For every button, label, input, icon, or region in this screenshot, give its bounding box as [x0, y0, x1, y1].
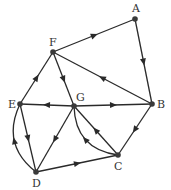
node-C [115, 152, 121, 158]
node-B [149, 101, 155, 107]
node-F [50, 49, 56, 55]
node-label-A: A [131, 2, 141, 15]
arrowhead-icon [32, 73, 41, 82]
arrowhead-icon [130, 125, 139, 134]
arrowhead-icon [110, 102, 117, 108]
node-A [132, 16, 138, 22]
node-label-F: F [49, 36, 57, 49]
arrowhead-icon [98, 73, 107, 82]
arrowhead-icon [90, 31, 99, 39]
directed-graph: ABCDEFG [0, 0, 171, 190]
arrowhead-icon [50, 135, 59, 144]
edge-D-E [13, 104, 36, 172]
node-E [17, 101, 23, 107]
arrowhead-icon [60, 75, 68, 84]
node-label-C: C [114, 160, 122, 173]
node-label-E: E [8, 98, 16, 111]
node-G [71, 103, 77, 109]
node-label-D: D [32, 177, 41, 190]
node-label-G: G [76, 91, 85, 104]
arrowhead-icon [43, 102, 50, 108]
node-D [33, 169, 39, 175]
node-label-B: B [157, 98, 165, 111]
arrowhead-icon [24, 134, 31, 142]
